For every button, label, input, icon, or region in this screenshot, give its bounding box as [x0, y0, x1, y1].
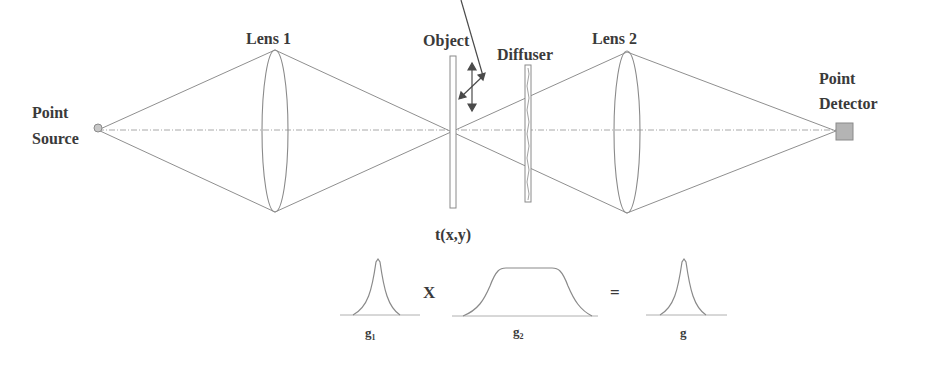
- g-peak-curve: [660, 259, 706, 315]
- lens-2: [614, 51, 640, 213]
- point-source-label-line1: Point: [32, 104, 69, 121]
- lens-1: [262, 50, 288, 212]
- g2-label: g2: [513, 324, 524, 341]
- transmission-label: t(x,y): [435, 226, 471, 244]
- g2-flat-curve: [463, 268, 592, 316]
- lens-2-label: Lens 2: [592, 30, 637, 47]
- point-detector-icon: [836, 123, 853, 140]
- g-label: g: [680, 325, 687, 340]
- ray: [627, 52, 836, 131]
- object-label: Object: [423, 32, 470, 50]
- g1-label: g1: [365, 325, 376, 342]
- ray: [98, 130, 275, 212]
- optical-setup-diagram: Point Source Lens 1 Object Diffuser Lens…: [0, 0, 929, 367]
- ray: [627, 131, 836, 213]
- point-detector-label-line1: Point: [819, 70, 856, 87]
- diffuser-plate: [525, 65, 531, 202]
- diffuser-label: Diffuser: [497, 46, 553, 63]
- g1-peak-curve: [353, 259, 400, 315]
- multiply-operator: X: [423, 283, 436, 302]
- lens-1-label: Lens 1: [246, 30, 291, 47]
- point-source-label-line2: Source: [32, 130, 79, 147]
- equals-operator: =: [610, 283, 620, 302]
- ray: [98, 50, 275, 130]
- translation-arrows-icon: [459, 0, 485, 111]
- object-plate: [450, 56, 456, 208]
- point-detector-label-line2: Detector: [819, 95, 878, 112]
- point-source-icon: [94, 124, 102, 132]
